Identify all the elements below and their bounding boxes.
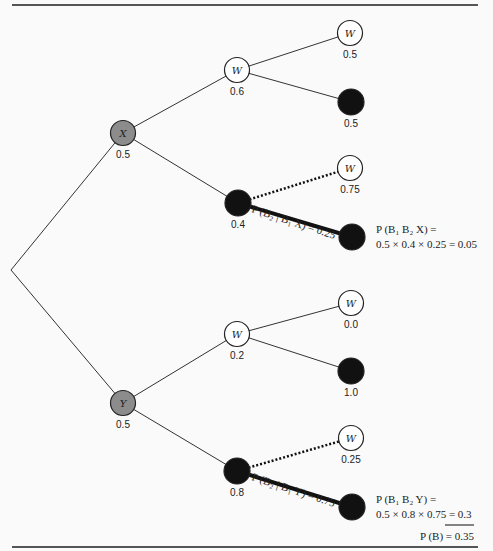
node-XWW: W0.5 — [338, 21, 363, 61]
equation-y-line2: 0.5 × 0.8 × 0.75 = 0.3 — [376, 508, 472, 520]
black-ball-icon — [338, 89, 364, 115]
edge-XW-XWB — [237, 70, 351, 102]
node-YWB: 1.0 — [338, 358, 364, 398]
node-label: W — [345, 163, 356, 174]
edge-X-XW — [123, 70, 237, 133]
node-label: W — [346, 298, 357, 309]
node-XBB — [339, 224, 365, 250]
node-probability: 0.5 — [343, 49, 357, 60]
node-YBB — [339, 494, 365, 520]
node-label: W — [232, 65, 243, 76]
black-ball-icon — [339, 224, 365, 250]
node-probability: 0.8 — [230, 487, 244, 498]
black-ball-icon — [224, 458, 250, 484]
edge-XW-XWW — [237, 33, 350, 70]
equation-total: P (B) = 0.35 — [420, 530, 475, 543]
node-label: W — [232, 329, 243, 340]
node-probability: 0.5 — [344, 118, 358, 129]
edge-XB-XBW — [238, 168, 350, 203]
edge-Y-YB — [123, 403, 237, 471]
equation-y-line1: P (B₁ B₂ Y) = — [376, 493, 436, 506]
node-label: W — [346, 433, 357, 444]
node-probability: 0.0 — [344, 319, 358, 330]
node-probability: 0.5 — [116, 419, 130, 430]
edge-Y-YW — [123, 334, 237, 403]
node-probability: 0.75 — [340, 184, 360, 195]
edge-YB-YBW — [237, 438, 351, 471]
node-X: X0.5 — [111, 121, 136, 161]
edge-label-y: P (B₂ | B₁ Y) = 0.75 — [250, 470, 337, 509]
edge-X-XB — [123, 133, 238, 203]
node-YW: W0.2 — [225, 322, 250, 362]
node-Y: Y0.5 — [111, 391, 136, 431]
tree-edges — [11, 33, 352, 507]
black-ball-icon — [339, 494, 365, 520]
node-probability: 0.2 — [230, 350, 244, 361]
node-XWB: 0.5 — [338, 89, 364, 129]
node-XW: W0.6 — [225, 58, 250, 98]
edge-root-X — [11, 133, 123, 270]
edge-label-x: P (B₂ | B₁ X) = 0.25 — [250, 202, 338, 242]
node-YBW: W0.25 — [339, 426, 364, 466]
node-YB: 0.8 — [224, 458, 250, 498]
node-label: X — [118, 128, 127, 139]
node-probability: 0.5 — [116, 149, 130, 160]
node-probability: 0.25 — [341, 454, 361, 465]
edge-YW-YWW — [237, 303, 351, 334]
black-ball-icon — [338, 358, 364, 384]
node-probability: 0.4 — [231, 219, 245, 230]
edge-root-Y — [11, 270, 123, 403]
probability-tree-diagram: X0.5Y0.5W0.60.4W0.20.8W0.50.5W0.75W0.01.… — [0, 0, 493, 551]
node-YWW: W0.0 — [339, 291, 364, 331]
equation-x-line1: P (B₁ B₂ X) = — [376, 223, 437, 236]
node-XB: 0.4 — [225, 190, 251, 230]
equation-x-line2: 0.5 × 0.4 × 0.25 = 0.05 — [376, 238, 478, 250]
node-XBW: W0.75 — [338, 156, 363, 196]
node-probability: 1.0 — [344, 387, 358, 398]
node-label: W — [345, 28, 356, 39]
edge-YW-YWB — [237, 334, 351, 371]
node-probability: 0.6 — [230, 86, 244, 97]
black-ball-icon — [225, 190, 251, 216]
